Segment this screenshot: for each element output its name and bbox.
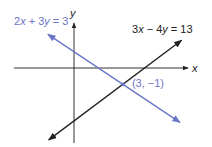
chart: x y 2x + 3y = 33x − 4y = 13(3, −1) <box>0 0 212 147</box>
intersection-point <box>121 83 125 87</box>
series-label-1: 2x + 3y = 3 <box>14 15 68 27</box>
series-label-2: 3x − 4y = 13 <box>132 23 193 35</box>
series-line-2 <box>49 40 182 140</box>
intersection-label: (3, −1) <box>132 77 164 89</box>
y-axis-label: y <box>69 7 77 19</box>
x-axis-label: x <box>191 62 198 74</box>
